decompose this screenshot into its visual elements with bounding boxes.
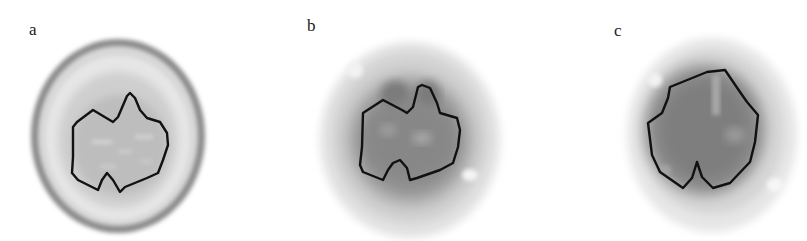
panel-b-image [320,42,500,238]
panel-a-label: a [29,21,37,38]
panel-b-label: b [307,17,316,34]
panel-c-image [627,38,797,232]
panel-a-image [31,39,205,233]
panel-c-label: c [614,22,622,39]
three-panel-brain-figure: a b c [0,0,807,241]
figure-canvas [0,0,807,241]
